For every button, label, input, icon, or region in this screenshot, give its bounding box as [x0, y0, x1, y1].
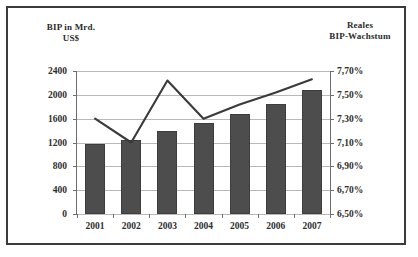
x-tick-mark	[77, 214, 78, 218]
right-tick-label: 6,70%	[337, 185, 363, 195]
right-tick-mark	[330, 71, 334, 72]
left-tick-label: 0	[62, 209, 67, 219]
left-tick-label: 1600	[48, 114, 67, 124]
right-tick-label: 6,90%	[337, 161, 363, 171]
x-tick-mark	[149, 214, 150, 218]
right-tick-mark	[330, 190, 334, 191]
plot-area	[77, 71, 330, 214]
growth-line-path	[95, 79, 312, 142]
category-label: 2007	[292, 221, 332, 232]
right-axis-title: Reales BIP-Wachstum	[308, 20, 412, 42]
category-label: 2004	[184, 221, 224, 232]
left-tick-label: 400	[53, 185, 67, 195]
category-label: 2005	[220, 221, 260, 232]
x-tick-mark	[185, 214, 186, 218]
right-tick-mark	[330, 166, 334, 167]
left-tick-mark	[73, 119, 77, 120]
left-tick-mark	[73, 71, 77, 72]
category-label: 2002	[111, 221, 151, 232]
left-tick-mark	[73, 95, 77, 96]
left-tick-mark	[73, 166, 77, 167]
chart-frame: BIP in Mrd. US$ Reales BIP-Wachstum 2400…	[6, 6, 406, 245]
right-tick-label: 7,50%	[337, 90, 363, 100]
left-tick-label: 1200	[48, 138, 67, 148]
gridline	[77, 214, 330, 215]
x-tick-mark	[294, 214, 295, 218]
left-tick-mark	[73, 190, 77, 191]
right-tick-mark	[330, 119, 334, 120]
right-tick-label: 7,30%	[337, 114, 363, 124]
left-axis-title: BIP in Mrd. US$	[26, 22, 116, 44]
left-tick-label: 2000	[48, 90, 67, 100]
x-tick-mark	[113, 214, 114, 218]
x-tick-mark	[222, 214, 223, 218]
left-tick-label: 800	[53, 161, 67, 171]
right-tick-label: 6,50%	[337, 209, 363, 219]
right-tick-mark	[330, 143, 334, 144]
left-tick-label: 2400	[48, 66, 67, 76]
right-tick-mark	[330, 95, 334, 96]
category-label: 2006	[256, 221, 296, 232]
category-label: 2003	[147, 221, 187, 232]
right-tick-label: 7,10%	[337, 138, 363, 148]
x-tick-mark	[258, 214, 259, 218]
x-tick-mark	[330, 214, 331, 218]
right-tick-label: 7,70%	[337, 66, 363, 76]
category-label: 2001	[75, 221, 115, 232]
left-tick-mark	[73, 143, 77, 144]
line-series	[77, 71, 330, 214]
